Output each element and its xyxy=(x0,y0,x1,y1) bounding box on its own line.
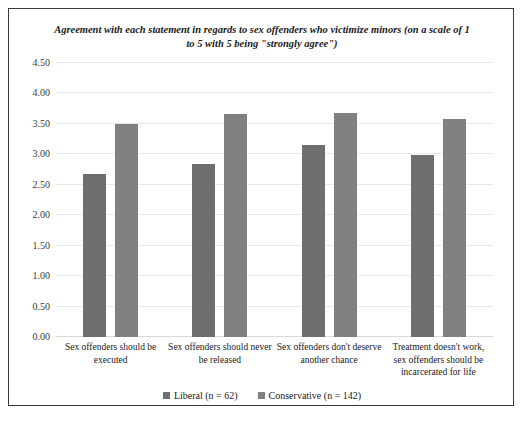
y-axis-tick-label: 2.50 xyxy=(33,178,51,189)
y-axis-tick-label: 1.00 xyxy=(33,270,51,281)
chart-legend: Liberal (n = 62)Conservative (n = 142) xyxy=(9,390,515,401)
y-axis-tick-label: 4.00 xyxy=(33,87,51,98)
bar xyxy=(443,119,466,337)
bar-group xyxy=(165,63,274,337)
bar xyxy=(302,145,325,337)
bar xyxy=(115,124,138,337)
y-axis-tick-label: 4.50 xyxy=(33,57,51,68)
legend-entry[interactable]: Conservative (n = 142) xyxy=(258,390,362,401)
bar-group xyxy=(56,63,165,337)
legend-label: Conservative (n = 142) xyxy=(269,390,362,401)
y-axis-tick-label: 0.00 xyxy=(33,331,51,342)
bar xyxy=(192,164,215,337)
y-axis-tick-label: 2.00 xyxy=(33,209,51,220)
bar xyxy=(224,114,247,337)
x-axis-category-label: Sex offenders should never be released xyxy=(165,341,274,379)
chart-figure: Agreement with each statement in regards… xyxy=(8,8,514,406)
y-axis-tick-label: 1.50 xyxy=(33,239,51,250)
legend-swatch-icon xyxy=(258,392,265,399)
y-axis-tick-label: 0.50 xyxy=(33,300,51,311)
legend-entry[interactable]: Liberal (n = 62) xyxy=(163,390,238,401)
bar xyxy=(334,113,357,337)
x-axis-category-label: Treatment doesn't work, sex offenders sh… xyxy=(384,341,493,379)
legend-label: Liberal (n = 62) xyxy=(174,390,238,401)
bar xyxy=(83,174,106,337)
y-axis-tick-label: 3.00 xyxy=(33,148,51,159)
y-axis-tick-label: 3.50 xyxy=(33,117,51,128)
bar xyxy=(411,155,434,337)
chart-title: Agreement with each statement in regards… xyxy=(49,23,475,51)
x-axis-category-label: Sex offenders don't deserve another chan… xyxy=(275,341,384,379)
bar-group xyxy=(384,63,493,337)
legend-swatch-icon xyxy=(163,392,170,399)
plot-area: 0.000.501.001.502.002.503.003.504.004.50 xyxy=(56,63,493,337)
bar-group xyxy=(275,63,384,337)
bars-layer xyxy=(56,63,493,337)
x-axis-labels: Sex offenders should be executedSex offe… xyxy=(56,341,493,379)
x-axis-category-label: Sex offenders should be executed xyxy=(56,341,165,379)
